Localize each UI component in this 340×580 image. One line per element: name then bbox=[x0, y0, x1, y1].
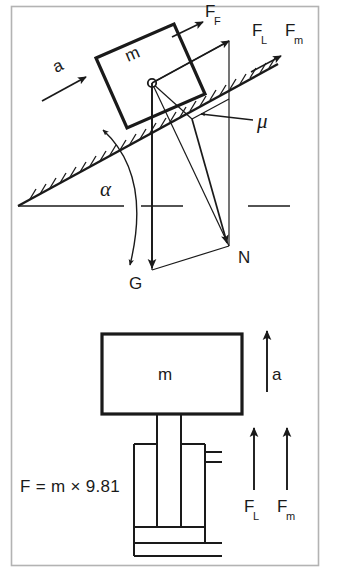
physics-diagram-svg: α m a bbox=[0, 0, 340, 580]
label-a-vertical: a bbox=[272, 365, 282, 384]
label-Fm-subscript: m bbox=[294, 34, 303, 46]
label-mu: μ bbox=[256, 109, 268, 133]
label-alpha: α bbox=[100, 177, 112, 201]
label-FL-subscript: L bbox=[261, 34, 267, 46]
label-Fm-vertical-subscript: m bbox=[286, 510, 295, 522]
force-equation-label: F = m × 9.81 bbox=[20, 477, 120, 496]
mass-label-vertical: m bbox=[158, 365, 172, 384]
label-N: N bbox=[238, 248, 250, 267]
label-G: G bbox=[129, 274, 142, 293]
label-FF-subscript: F bbox=[214, 15, 221, 27]
figure-root: α m a bbox=[0, 0, 340, 580]
label-FL-vertical-subscript: L bbox=[253, 510, 259, 522]
